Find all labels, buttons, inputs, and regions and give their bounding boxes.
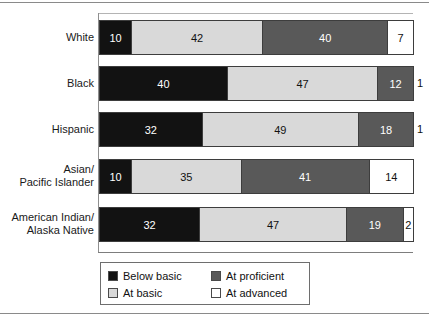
segment-value: 32 [145,124,157,136]
segment-value: 40 [319,32,331,44]
bar-segment-prof: 18 [358,113,413,146]
row-category-label: Hispanic [0,123,94,136]
segment-value: 7 [398,32,404,44]
legend-label: At advanced [226,287,287,299]
row-category-label: Asian/ Pacific Islander [0,163,94,188]
bar-segment-adv: 14 [369,160,413,193]
bottom-divider-rule [0,313,429,314]
plot-frame-top [98,13,413,14]
bar-segment-basic: 35 [131,160,241,193]
row-category-label: White [0,31,94,44]
legend-swatch-below-icon [108,271,118,281]
segment-value-outside: 1 [417,77,423,89]
bar-segment-adv: 2 [403,208,413,241]
bar-segment-prof: 12 [377,67,413,100]
stacked-bar: 404712 [99,66,414,101]
bar-segment-below: 32 [100,113,202,146]
row-category-label: Black [0,77,94,90]
bar-segment-below: 10 [100,160,131,193]
segment-value: 47 [296,78,308,90]
segment-value: 40 [157,78,169,90]
bar-segment-basic: 47 [227,67,377,100]
segment-value: 2 [405,219,411,231]
bar-segment-adv: 7 [387,21,413,54]
segment-value: 35 [180,171,192,183]
legend-label: At basic [123,287,162,299]
bar-segment-prof: 19 [346,208,403,241]
bar-segment-below: 40 [100,67,227,100]
legend-label: At proficient [226,270,284,282]
segment-value: 32 [143,219,155,231]
segment-value: 18 [380,124,392,136]
segment-value: 14 [385,171,397,183]
legend-item[interactable]: At proficient [211,270,311,282]
stacked-bar: 3247192 [99,207,414,242]
legend-swatch-prof-icon [211,271,221,281]
bar-segment-prof: 40 [262,21,387,54]
segment-value: 10 [109,171,121,183]
top-divider-rule [0,2,429,3]
bar-segment-below: 10 [100,21,131,54]
bar-segment-prof: 41 [241,160,369,193]
legend-item[interactable]: At advanced [211,287,311,299]
bar-segment-basic: 42 [131,21,262,54]
stacked-bar: 10354114 [99,159,414,194]
legend-swatch-basic-icon [108,288,118,298]
stacked-bar-chart: White1042407Black1404712Hispanic1324918A… [0,0,429,318]
legend-item[interactable]: Below basic [108,270,211,282]
bar-segment-basic: 49 [202,113,359,146]
row-category-label: American Indian/ Alaska Native [0,211,94,236]
bar-segment-below: 32 [100,208,199,241]
legend-label: Below basic [123,270,182,282]
x-axis-line [98,252,413,253]
segment-value: 12 [389,78,401,90]
segment-value: 49 [274,124,286,136]
stacked-bar: 1042407 [99,20,414,55]
segment-value: 47 [267,219,279,231]
segment-value: 41 [299,171,311,183]
chart-legend: Below basicAt proficientAt basicAt advan… [100,262,310,305]
stacked-bar: 324918 [99,112,414,147]
segment-value-outside: 1 [417,123,423,135]
legend-item[interactable]: At basic [108,287,211,299]
segment-value: 10 [109,32,121,44]
segment-value: 42 [191,32,203,44]
bar-segment-basic: 47 [199,208,346,241]
legend-swatch-adv-icon [211,288,221,298]
segment-value: 19 [369,219,381,231]
